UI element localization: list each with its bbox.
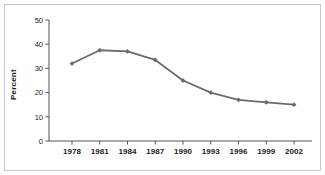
x-tick-label: 2002 — [285, 147, 303, 156]
y-axis-ticks: 01020304050 — [35, 16, 49, 146]
x-axis-ticks: 197819811984198719901993199619992002 — [63, 141, 303, 156]
y-tick-label: 40 — [35, 40, 43, 49]
x-tick-label: 1981 — [91, 147, 109, 156]
x-tick-label: 1999 — [257, 147, 275, 156]
data-point-markers — [70, 48, 297, 107]
y-tick-label: 50 — [35, 16, 43, 25]
line-chart-svg: 01020304050 1978198119841987199019931996… — [0, 0, 325, 175]
x-tick-label: 1996 — [230, 147, 248, 156]
chart-figure: Percent 01020304050 19781981198419871990… — [0, 0, 325, 175]
data-line-series — [72, 50, 294, 104]
data-point-marker — [292, 102, 297, 107]
y-tick-label: 10 — [35, 113, 43, 122]
x-tick-label: 1990 — [174, 147, 192, 156]
x-tick-label: 1978 — [63, 147, 81, 156]
y-tick-label: 0 — [39, 137, 43, 146]
x-tick-label: 1993 — [202, 147, 220, 156]
data-point-marker — [125, 49, 130, 54]
x-tick-label: 1987 — [146, 147, 164, 156]
plot-area: 01020304050 1978198119841987199019931996… — [0, 0, 325, 175]
x-tick-label: 1984 — [119, 147, 137, 156]
y-tick-label: 20 — [35, 88, 43, 97]
y-tick-label: 30 — [35, 64, 43, 73]
data-point-marker — [236, 97, 241, 102]
data-point-marker — [264, 100, 269, 105]
